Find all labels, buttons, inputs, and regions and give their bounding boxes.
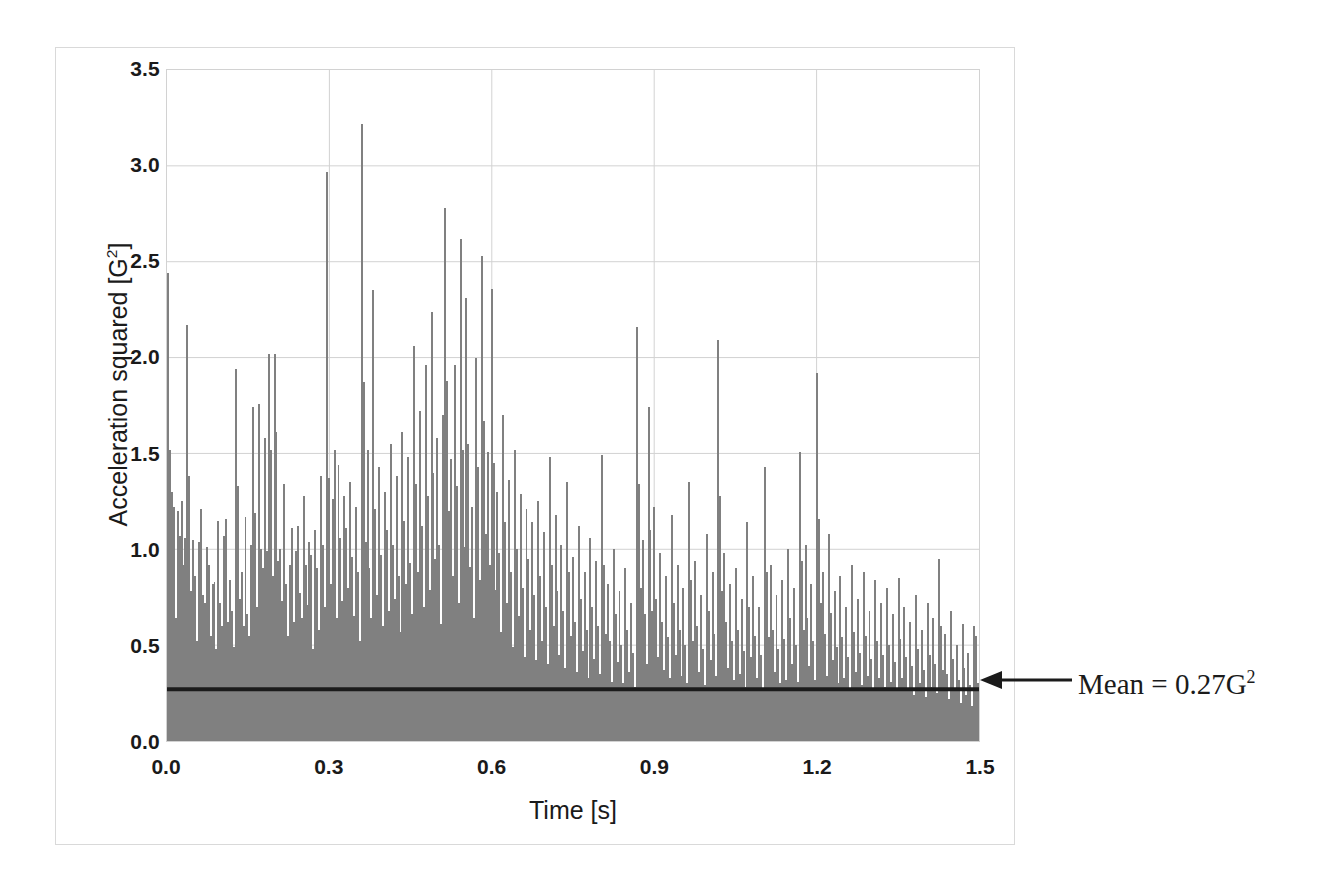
x-axis-title: Time [s]: [166, 796, 980, 825]
x-tick-label: 1.5: [965, 756, 994, 777]
x-tick-label: 1.2: [803, 756, 832, 777]
y-tick-label: 0.0: [104, 731, 160, 752]
mean-arrow-icon: [980, 668, 1072, 692]
mean-annotation-label: Mean = 0.27G2: [1078, 668, 1256, 701]
x-tick-label: 0.9: [640, 756, 669, 777]
y-axis-title-exponent: 2: [103, 250, 120, 259]
x-tick-label: 0.0: [151, 756, 180, 777]
x-tick-label: 0.6: [477, 756, 506, 777]
mean-label-unit: G: [1226, 668, 1247, 700]
x-tick-label: 0.3: [314, 756, 343, 777]
acceleration-squared-chart: 0.00.51.01.52.02.53.03.5 0.00.30.60.91.2…: [0, 0, 1321, 887]
y-axis-title-tail: ]: [104, 243, 132, 250]
bar-series: [167, 124, 979, 741]
mean-label-exponent: 2: [1247, 667, 1256, 687]
y-tick-label: 3.5: [104, 58, 160, 79]
x-axis-tick-labels: 0.00.30.60.91.21.5: [0, 756, 1321, 786]
y-axis-title-wrapper: Acceleration squared [G2]: [60, 0, 100, 887]
mean-label-value: 0.27: [1175, 668, 1226, 700]
mean-label-prefix: Mean =: [1078, 668, 1175, 700]
y-axis-title: Acceleration squared [G2]: [104, 125, 133, 645]
y-axis-title-text: Acceleration squared [G: [104, 258, 132, 526]
plot-canvas: [167, 70, 979, 741]
plot-area: [166, 69, 980, 742]
